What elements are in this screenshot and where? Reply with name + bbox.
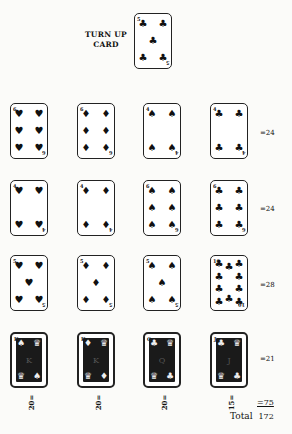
card-5-of-spades: 5♠♠♠♠♠5 bbox=[143, 255, 181, 311]
suit-clubs-icon: ♣ bbox=[233, 372, 241, 381]
card-index-bottom: 5 bbox=[175, 302, 178, 307]
suit-clubs-icon: ♣ bbox=[214, 186, 224, 196]
total-label: Total bbox=[230, 411, 253, 421]
suit-hearts-icon: ♥ bbox=[34, 126, 44, 136]
suit-diamonds-icon: ♦ bbox=[101, 261, 111, 271]
card-4-of-diamonds: 4♦♦♦♦4 bbox=[77, 180, 115, 236]
card-6-of-diamonds: 6♦♦♦♦♦♦6 bbox=[77, 103, 115, 159]
suit-spades-icon: ♠ bbox=[147, 295, 157, 305]
suit-clubs-icon: ♣ bbox=[166, 372, 174, 381]
face-figure-icon: Q bbox=[159, 356, 166, 365]
suit-clubs-icon: ♣ bbox=[234, 259, 244, 269]
suit-spades-icon: ♠ bbox=[147, 109, 157, 119]
card-4-of-spades: 4♠♠♠♠4 bbox=[143, 103, 181, 159]
suit-spades-icon: ♠ bbox=[167, 261, 177, 271]
face-figure-icon: K bbox=[93, 356, 99, 365]
card-index-bottom: 6 bbox=[242, 227, 245, 232]
suit-spades-icon: ♠ bbox=[157, 278, 167, 288]
suit-clubs-icon: ♣ bbox=[214, 272, 224, 282]
card-index-bottom: 5 bbox=[42, 302, 45, 307]
suit-clubs-icon: ♣ bbox=[234, 186, 244, 196]
column-score-3: 20= bbox=[160, 393, 169, 413]
suit-hearts-icon: ♥ bbox=[14, 186, 24, 196]
suit-clubs-icon: ♣ bbox=[234, 272, 244, 282]
grand-total: Total 172 bbox=[230, 411, 274, 421]
suit-clubs-icon: ♣ bbox=[150, 339, 158, 348]
card-K-of-diamonds: K♦♛♛♦K bbox=[77, 332, 115, 388]
suit-clubs-icon: ♛ bbox=[150, 372, 158, 381]
suit-clubs-icon: ♣ bbox=[234, 109, 244, 119]
suit-spades-icon: ♠ bbox=[17, 339, 25, 348]
card-index-bottom: 6 bbox=[175, 227, 178, 232]
face-card-art: ♣♛♛♣Q bbox=[149, 338, 175, 382]
suit-diamonds-icon: ♦ bbox=[81, 220, 91, 230]
turn-up-card: 5♣♣♣♣♣5 bbox=[134, 13, 172, 69]
suit-diamonds-icon: ♦ bbox=[84, 339, 92, 348]
card-index-bottom: 4 bbox=[109, 227, 112, 232]
card-index-bottom: 4 bbox=[42, 227, 45, 232]
card-5-of-diamonds: 5♦♦♦♦♦5 bbox=[77, 255, 115, 311]
suit-clubs-icon: ♣ bbox=[214, 143, 224, 153]
suit-spades-icon: ♠ bbox=[167, 186, 177, 196]
face-card-art: ♦♛♛♦K bbox=[83, 338, 109, 382]
suit-diamonds-icon: ♦ bbox=[81, 126, 91, 136]
suit-clubs-icon: ♣ bbox=[138, 53, 148, 63]
face-figure-icon: J bbox=[227, 356, 230, 365]
row-score-2: =24 bbox=[260, 205, 275, 213]
card-6-of-spades: 6♠♠♠♠♠♠6 bbox=[143, 180, 181, 236]
card-4-of-hearts: 4♥♥♥♥4 bbox=[10, 180, 48, 236]
suit-clubs-icon: ♣ bbox=[158, 19, 168, 29]
card-index-bottom: 6 bbox=[42, 150, 45, 155]
suit-hearts-icon: ♥ bbox=[14, 295, 24, 305]
suit-hearts-icon: ♥ bbox=[14, 109, 24, 119]
suit-clubs-icon: ♛ bbox=[217, 372, 225, 381]
suit-clubs-icon: ♣ bbox=[138, 19, 148, 29]
row-score-4: =21 bbox=[260, 355, 275, 363]
suit-spades-icon: ♠ bbox=[33, 372, 41, 381]
suit-hearts-icon: ♥ bbox=[14, 261, 24, 271]
suit-clubs-icon: ♛ bbox=[233, 339, 241, 348]
column-sum: =75 bbox=[257, 398, 274, 407]
suit-spades-icon: ♠ bbox=[167, 203, 177, 213]
turn-up-label-line2: CARD bbox=[78, 40, 134, 50]
suit-diamonds-icon: ♛ bbox=[100, 339, 108, 348]
face-figure-icon: K bbox=[26, 356, 32, 365]
card-index-bottom: 10 bbox=[238, 302, 245, 307]
card-5-of-hearts: 5♥♥♥♥♥5 bbox=[10, 255, 48, 311]
suit-clubs-icon: ♣ bbox=[214, 220, 224, 230]
suit-clubs-icon: ♣ bbox=[214, 109, 224, 119]
suit-spades-icon: ♠ bbox=[147, 261, 157, 271]
suit-hearts-icon: ♥ bbox=[14, 143, 24, 153]
face-card-art: ♠♛♛♠K bbox=[16, 338, 42, 382]
suit-diamonds-icon: ♦ bbox=[81, 143, 91, 153]
suit-spades-icon: ♠ bbox=[147, 186, 157, 196]
card-Q-of-clubs: Q♣♛♛♣Q bbox=[143, 332, 181, 388]
suit-clubs-icon: ♣ bbox=[224, 294, 234, 304]
suit-diamonds-icon: ♦ bbox=[81, 261, 91, 271]
suit-diamonds-icon: ♛ bbox=[84, 372, 92, 381]
suit-clubs-icon: ♣ bbox=[214, 297, 224, 307]
card-J-of-clubs: J♣♛♛♣J bbox=[210, 332, 248, 388]
card-K-of-spades: K♠♛♛♠K bbox=[10, 332, 48, 388]
suit-clubs-icon: ♣ bbox=[214, 203, 224, 213]
suit-hearts-icon: ♥ bbox=[14, 126, 24, 136]
column-score-1: 20= bbox=[27, 393, 36, 413]
suit-diamonds-icon: ♦ bbox=[81, 109, 91, 119]
suit-clubs-icon: ♣ bbox=[148, 36, 158, 46]
suit-hearts-icon: ♥ bbox=[14, 220, 24, 230]
suit-spades-icon: ♠ bbox=[167, 109, 177, 119]
column-score-2: 20= bbox=[94, 393, 103, 413]
total-value: 172 bbox=[258, 412, 273, 421]
row-score-1: =24 bbox=[260, 129, 275, 137]
suit-spades-icon: ♛ bbox=[33, 339, 41, 348]
turn-up-label-line1: TURN UP bbox=[78, 30, 134, 40]
suit-hearts-icon: ♥ bbox=[34, 186, 44, 196]
suit-clubs-icon: ♣ bbox=[214, 259, 224, 269]
suit-diamonds-icon: ♦ bbox=[81, 295, 91, 305]
suit-clubs-icon: ♣ bbox=[224, 262, 234, 272]
row-score-3: =28 bbox=[260, 281, 275, 289]
suit-clubs-icon: ♣ bbox=[217, 339, 225, 348]
suit-diamonds-icon: ♦ bbox=[100, 372, 108, 381]
suit-diamonds-icon: ♦ bbox=[91, 278, 101, 288]
card-6-of-clubs: 6♣♣♣♣♣♣6 bbox=[210, 180, 248, 236]
